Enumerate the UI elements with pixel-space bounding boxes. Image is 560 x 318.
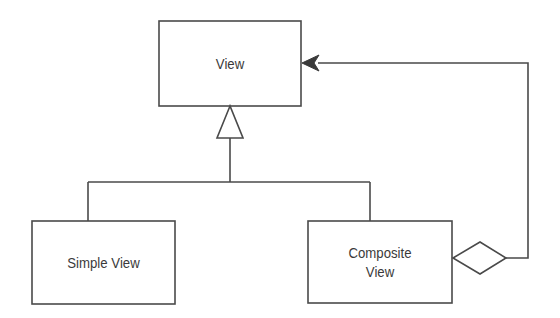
aggregation-diamond-icon: [453, 242, 506, 274]
composite-view-label: Composite View: [317, 221, 444, 303]
composite-view-label-line1: Composite: [348, 243, 411, 262]
generalization-triangle-icon: [217, 106, 243, 138]
simple-view-label-text: Simple View: [67, 253, 139, 272]
composite-view-label-line2: View: [366, 262, 394, 281]
simple-view-label: Simple View: [41, 221, 167, 304]
view-label: View: [168, 21, 293, 106]
view-label-text: View: [216, 54, 244, 73]
arrowhead-icon: [302, 55, 319, 71]
